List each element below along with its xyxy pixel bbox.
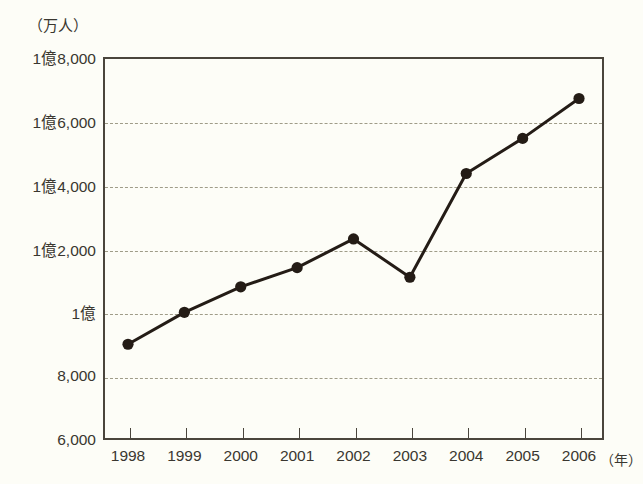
x-tick-label: 2001 [280,447,314,465]
x-tick-label: 2006 [562,447,596,465]
x-tick-label: 2002 [336,447,370,465]
x-axis-tick-labels: 199819992000200120022003200420052006 [0,0,643,484]
x-tick-label: 1998 [111,447,145,465]
x-tick-label: 1999 [167,447,201,465]
x-tick-label: 2005 [505,447,539,465]
x-tick-label: 2004 [449,447,483,465]
x-tick-label: 2003 [393,447,427,465]
x-tick-label: 2000 [224,447,258,465]
chart-page: （万人） （年） 1億8,0001億6,0001億4,0001億2,0001億8… [0,0,643,484]
